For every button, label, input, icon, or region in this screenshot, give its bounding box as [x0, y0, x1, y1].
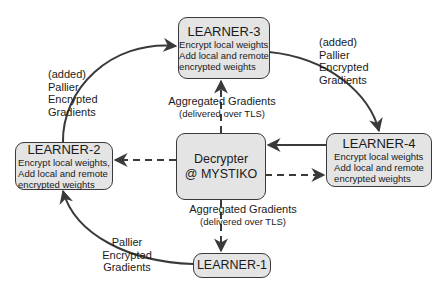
node-learner-1: LEARNER-1 [193, 253, 271, 278]
node-title: LEARNER-3 [188, 24, 261, 39]
node-learner-4: LEARNER-4 Encrypt local weights Add loca… [326, 133, 432, 187]
node-learner-2: LEARNER-2 Encrypt local weights, Add loc… [15, 142, 113, 190]
node-learner-3: LEARNER-3 Encrypt local weights Add loca… [178, 17, 270, 79]
node-title: LEARNER-2 [28, 142, 101, 157]
edge-label-learner2-to-learner3: (added) Pallier Encrypted Gradients [48, 68, 98, 118]
node-description: Encrypt local weights Add local and remo… [179, 39, 269, 72]
edge-label-learner3-to-learner4: (added) Pallier Encrypted Gradients [319, 36, 369, 86]
node-title-line2: @ MYSTIKO [185, 167, 257, 182]
node-title: LEARNER-1 [197, 258, 267, 273]
node-title: LEARNER-4 [343, 136, 416, 151]
node-title-line1: Decrypter [194, 152, 248, 167]
edge-label-decrypter-to-learner3: Aggregated Gradients (delivered over TLS… [165, 95, 279, 120]
edge-label-learner1-to-learner2: Pallier Encrypted Gradients [97, 236, 157, 274]
node-description: Encrypt local weights, Add local and rem… [18, 157, 110, 190]
node-description: Encrypt local weights Add local and remo… [334, 151, 424, 184]
node-decrypter: Decrypter @ MYSTIKO [176, 133, 266, 200]
edge-label-decrypter-to-learner1: Aggregated Gradients (delivered over TLS… [183, 203, 303, 228]
